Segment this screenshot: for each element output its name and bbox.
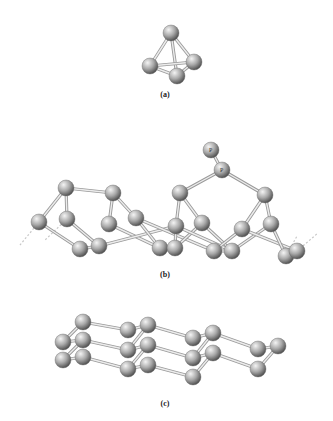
atom: [120, 322, 136, 338]
atom: [250, 361, 266, 377]
atom: [120, 361, 136, 377]
atom: [224, 243, 240, 259]
panel-b-chain: PP: [20, 142, 318, 264]
panel-c-layered-sheets: [55, 314, 286, 385]
atom: [75, 349, 91, 365]
atom: [140, 337, 156, 353]
atom: [75, 314, 91, 330]
atom: [257, 187, 273, 203]
atom: [169, 68, 185, 84]
atom: [91, 238, 107, 254]
panel-a-tetrahedron: [142, 25, 202, 84]
atom: [140, 317, 156, 333]
atom: [152, 240, 168, 256]
atom: [120, 342, 136, 358]
atom: [55, 352, 71, 368]
atom: [140, 357, 156, 373]
atom: [206, 243, 222, 259]
atom: [234, 221, 250, 237]
atom: [186, 54, 202, 70]
atom: [168, 218, 184, 234]
atom: [31, 214, 47, 230]
atom: [270, 338, 286, 354]
atom: [58, 180, 74, 196]
atom: [289, 243, 305, 259]
atom: [263, 216, 279, 232]
atom: [72, 241, 88, 257]
atom: [185, 369, 201, 385]
atom: [194, 215, 210, 231]
atom: [59, 211, 75, 227]
atom: [142, 58, 158, 74]
atom: [185, 350, 201, 366]
atom: [167, 240, 183, 256]
atom: [172, 185, 188, 201]
atom: [205, 345, 221, 361]
atom: [105, 185, 121, 201]
panel-c-label: (c): [161, 399, 170, 408]
atom: [250, 341, 266, 357]
panel-a-label: (a): [160, 90, 169, 99]
atom: [75, 332, 91, 348]
phosphorus-structures-figure: PP: [0, 0, 333, 421]
atom: [163, 25, 179, 41]
panel-b-label: (b): [160, 270, 170, 279]
atom: [185, 330, 201, 346]
atom: [101, 216, 117, 232]
atom: [55, 334, 71, 350]
atom: [205, 325, 221, 341]
atom: [128, 210, 144, 226]
